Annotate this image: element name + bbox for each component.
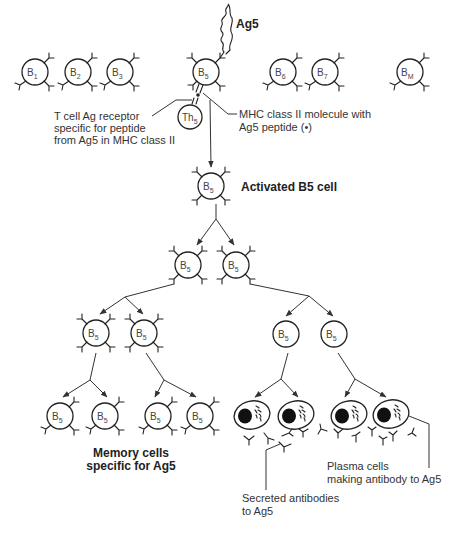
- branch-arrow: [309, 296, 333, 316]
- plasma-cell-4: [370, 397, 411, 432]
- th-cell-th5: Th5: [178, 105, 202, 129]
- b-cell-b3: B3: [100, 53, 139, 91]
- svg-text:Secreted antibodies: Secreted antibodies: [242, 492, 340, 504]
- svg-text:from Ag5 in MHC class II: from Ag5 in MHC class II: [54, 134, 175, 146]
- plasma-cell-2: [275, 398, 316, 433]
- gen3-memory-a-cell: B5: [77, 314, 115, 352]
- svg-text:MHC class II molecule with: MHC class II molecule with: [239, 108, 371, 120]
- b-cell-b1: B1: [15, 53, 54, 91]
- branch-arrow: [345, 379, 355, 397]
- branch-arrow: [281, 379, 298, 397]
- plasma-cell-1: [231, 398, 272, 433]
- gen2-right-cell: B5: [217, 246, 255, 284]
- svg-text:specific for Ag5: specific for Ag5: [86, 459, 176, 473]
- svg-text:T cell Ag receptor: T cell Ag receptor: [54, 110, 140, 122]
- branch-arrow: [355, 379, 386, 397]
- svg-text:making antibody to Ag5: making antibody to Ag5: [327, 473, 441, 485]
- svg-text:to Ag5: to Ag5: [242, 505, 273, 517]
- branch-arrow: [197, 219, 216, 245]
- branch-line: [90, 353, 96, 380]
- peptide-dot: [196, 93, 200, 97]
- svg-text:Ag5 peptide (•): Ag5 peptide (•): [239, 121, 312, 133]
- clonal-selection-diagram: B1 B2 B3 B5 Ag5 Th5: [0, 0, 462, 552]
- b-cell-bm: BM: [390, 53, 429, 91]
- mhc-tcr-complex: [192, 84, 203, 104]
- tcr-annotation: T cell Ag receptor specific for peptide …: [54, 100, 192, 146]
- branch-arrow: [100, 297, 125, 314]
- antigen-label: Ag5: [236, 17, 259, 31]
- branch-arrow: [286, 296, 309, 316]
- gen3-memory-b-cell: B5: [125, 314, 163, 352]
- b-cell-b6: B6: [263, 53, 302, 91]
- b-cell-b7: B7: [305, 53, 344, 91]
- gen2-left-cell: B5: [169, 246, 207, 284]
- svg-text:Plasma cells: Plasma cells: [327, 460, 389, 472]
- branch-arrow: [90, 380, 107, 397]
- memory-cell-1: B5: [41, 397, 79, 435]
- memory-cell-3: B5: [139, 397, 177, 435]
- svg-text:Memory cells: Memory cells: [93, 446, 169, 460]
- gen3-plasma-precursor-b-cell: B5: [321, 321, 347, 347]
- memory-cell-2: B5: [86, 397, 124, 435]
- branch-line: [281, 353, 288, 379]
- branch-arrow: [155, 380, 164, 397]
- branch-arrow: [216, 219, 234, 245]
- activated-label: Activated B5 cell: [241, 180, 337, 194]
- svg-text:specific for peptide: specific for peptide: [54, 122, 146, 134]
- gen3-plasma-precursor-a-cell: B5: [273, 321, 299, 347]
- b-cell-b2: B2: [58, 53, 97, 91]
- memory-cell-4: B5: [181, 397, 219, 435]
- branch-arrow: [125, 297, 143, 314]
- b-cell-b5: B5: [187, 53, 225, 91]
- memory-cells-label: Memory cells specific for Ag5: [86, 446, 176, 473]
- branch-arrow: [255, 379, 281, 397]
- plasma-cell-3: [328, 398, 369, 433]
- activated-b5-cell: B5 Activated B5 cell: [192, 167, 337, 205]
- branch-line: [146, 353, 164, 380]
- branch-arrow: [63, 380, 90, 397]
- mhc-annotation: MHC class II molecule with Ag5 peptide (…: [203, 93, 371, 133]
- branch-line: [338, 353, 355, 379]
- activation-arrow: [210, 100, 211, 167]
- branch-arrow: [164, 380, 196, 397]
- secreted-antibodies-annotation: Secreted antibodies to Ag5: [242, 444, 340, 517]
- branch-line: [125, 284, 174, 297]
- antigen-ag5: Ag5: [220, 4, 259, 58]
- branch-line: [250, 284, 309, 296]
